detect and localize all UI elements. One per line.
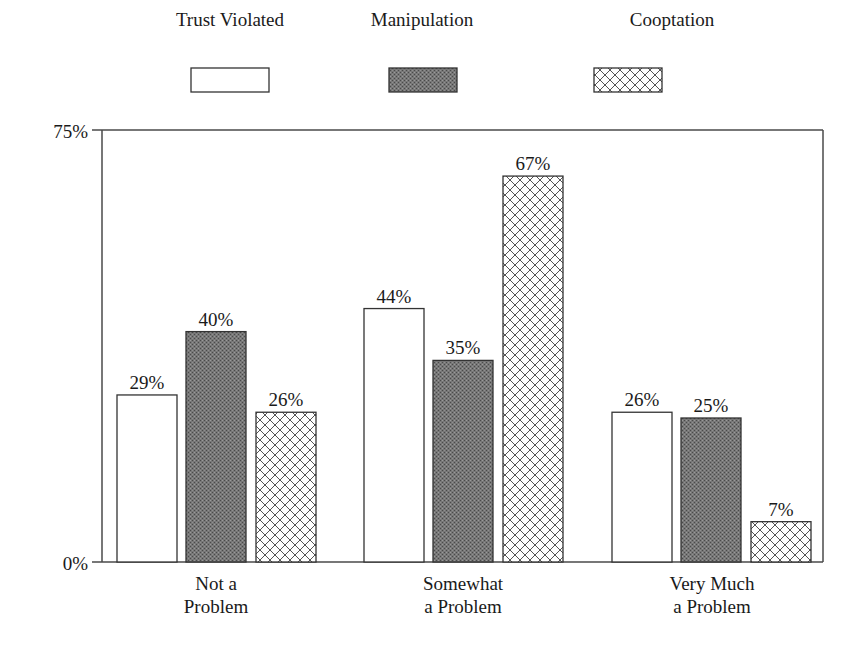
bar-value-label: 7% [768,499,794,520]
bar-trust-violated [117,395,177,562]
category-label-line2: a Problem [424,596,502,617]
bar-value-label: 44% [377,286,412,307]
bars: 29%44%26%40%35%25%26%67%7% [117,153,811,562]
category-label-line1: Very Much [670,573,755,594]
category-label-line2: a Problem [673,596,751,617]
legend-item-cooptation: Cooptation [594,9,715,92]
category-label-line2: Problem [184,596,249,617]
legend-swatch-white [191,68,269,92]
bar-manipulation [186,332,246,562]
bar-manipulation [433,360,493,562]
bar-trust-violated [364,309,424,562]
bar-value-label: 35% [446,337,481,358]
legend: Trust Violated Manipulation Cooptation [176,9,715,92]
legend-label: Cooptation [630,9,715,30]
legend-swatch-stipple [389,68,457,92]
bar-value-label: 26% [269,389,304,410]
category-label-line1: Somewhat [423,573,504,594]
legend-label: Trust Violated [176,9,285,30]
bar-cooptation [751,522,811,562]
y-tick-label-max: 75% [53,121,88,142]
legend-item-manipulation: Manipulation [371,9,474,92]
bar-value-label: 25% [694,395,729,416]
legend-label: Manipulation [371,9,474,30]
bar-trust-violated [612,412,672,562]
bar-value-label: 40% [199,309,234,330]
legend-swatch-crosshatch [594,68,662,92]
category-label-line1: Not a [195,573,237,594]
x-category-labels: Not a Problem Somewhat a Problem Very Mu… [184,573,755,617]
bar-value-label: 26% [625,389,660,410]
y-tick-label-zero: 0% [63,553,89,574]
legend-item-trust-violated: Trust Violated [176,9,285,92]
bar-value-label: 67% [516,153,551,174]
bar-cooptation [256,412,316,562]
bar-manipulation [681,418,741,562]
bar-chart: Trust Violated Manipulation Cooptation 7… [0,0,866,660]
bar-value-label: 29% [130,372,165,393]
bar-cooptation [503,176,563,562]
